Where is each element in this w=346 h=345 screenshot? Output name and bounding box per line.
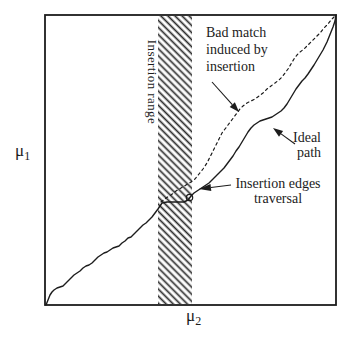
insertion-edges-line1: Insertion edges xyxy=(228,176,328,191)
insertion-edges-annotation: Insertion edges traversal xyxy=(228,176,328,206)
insertion-range-band xyxy=(158,16,192,304)
y-axis-label: μ1 xyxy=(15,141,30,161)
bad-match-line3: insertion xyxy=(206,58,268,75)
bad-match-annotation: Bad match induced by insertion xyxy=(206,24,268,75)
ideal-path-line2: path xyxy=(293,145,321,160)
ideal-path-arrow-head xyxy=(273,128,283,137)
insertion-range-label: Insertion range xyxy=(144,40,160,124)
plot-svg xyxy=(0,0,346,345)
bad-match-line2: induced by xyxy=(206,41,268,58)
y-axis-label-subscript: 1 xyxy=(24,149,30,163)
bad-match-line1: Bad match xyxy=(206,24,268,41)
figure-canvas: Insertion range Bad match induced by ins… xyxy=(0,0,346,345)
x-axis-label: μ2 xyxy=(186,306,201,326)
bad-match-arrow-shaft xyxy=(212,82,232,105)
y-axis-label-symbol: μ xyxy=(15,141,24,160)
ideal-path-annotation: Ideal path xyxy=(293,130,321,160)
x-axis-label-symbol: μ xyxy=(186,306,195,325)
insertion-edges-line2: traversal xyxy=(228,191,328,206)
ideal-path-line1: Ideal xyxy=(293,130,321,145)
x-axis-label-subscript: 2 xyxy=(195,314,201,328)
